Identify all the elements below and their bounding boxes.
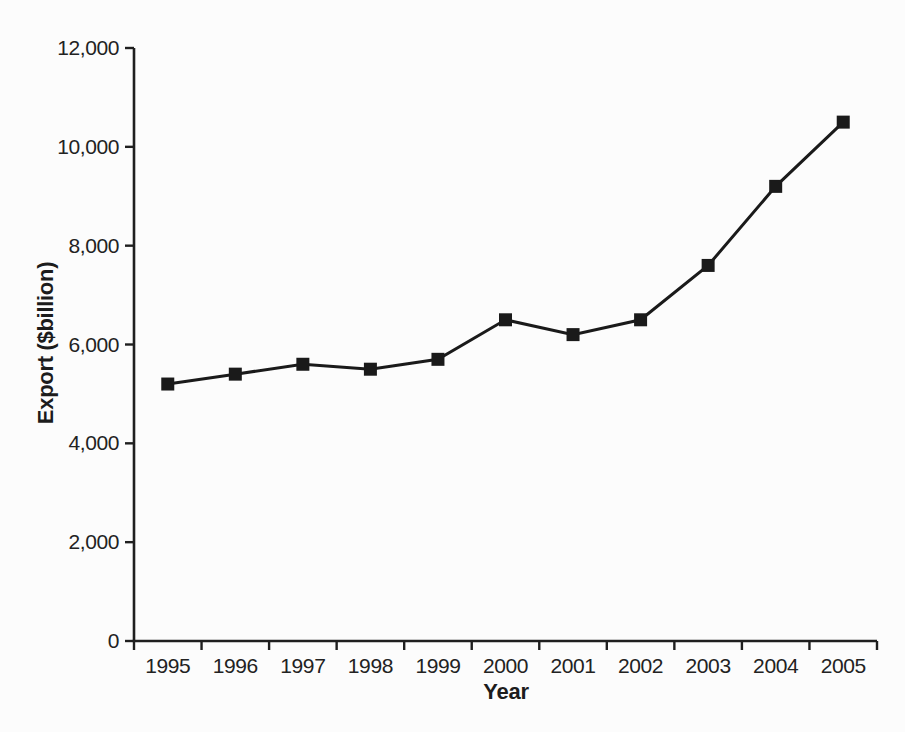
x-axis-tick-label: 1998: [348, 654, 393, 677]
chart-figure: 02,0004,0006,0008,00010,00012,0001995199…: [0, 0, 905, 732]
y-axis-title: Export ($billion): [33, 262, 59, 424]
data-point-marker-1998: [364, 363, 377, 376]
y-axis-tick-label: 2,000: [68, 530, 119, 553]
y-axis-tick-label: 10,000: [57, 135, 119, 158]
y-axis-tick-label: 4,000: [68, 431, 119, 454]
data-point-marker-1997: [296, 358, 309, 371]
y-axis-tick-label: 12,000: [57, 36, 119, 59]
x-axis-tick-label: 2003: [686, 654, 731, 677]
data-point-marker-2005: [837, 116, 850, 129]
y-axis-tick-label: 8,000: [68, 234, 119, 257]
data-point-marker-1995: [161, 378, 174, 391]
x-axis-tick-label: 1995: [145, 654, 190, 677]
data-point-marker-1996: [229, 368, 242, 381]
data-point-marker-2000: [499, 313, 512, 326]
data-point-marker-2002: [634, 313, 647, 326]
x-axis-tick-label: 2000: [483, 654, 528, 677]
x-axis-tick-label: 2002: [618, 654, 663, 677]
data-point-marker-1999: [431, 353, 444, 366]
x-axis-tick-label: 2005: [821, 654, 866, 677]
x-axis-tick-label: 1996: [213, 654, 258, 677]
data-point-marker-2004: [769, 180, 782, 193]
x-axis-title: Year: [483, 679, 528, 705]
series-line-export: [168, 122, 843, 384]
x-axis-tick-label: 1999: [415, 654, 460, 677]
data-point-marker-2001: [567, 328, 580, 341]
y-axis-tick-label: 6,000: [68, 333, 119, 356]
x-axis-tick-label: 1997: [280, 654, 325, 677]
y-axis-tick-label: 0: [108, 629, 119, 652]
x-axis-tick-label: 2001: [550, 654, 595, 677]
data-point-marker-2003: [702, 259, 715, 272]
export-line-chart: 02,0004,0006,0008,00010,00012,0001995199…: [0, 0, 905, 732]
x-axis-tick-label: 2004: [753, 654, 799, 677]
